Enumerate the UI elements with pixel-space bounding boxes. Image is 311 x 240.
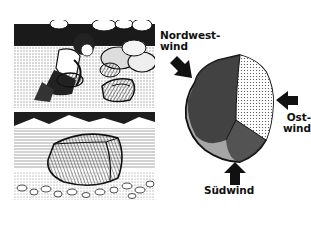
south-wind-arrow-icon	[224, 162, 246, 185]
child-stones-drawing	[14, 20, 155, 108]
east-wind-arrow-icon	[276, 91, 298, 110]
south-wind-label: Südwind	[204, 185, 254, 196]
east-wind-label: Ost- wind	[283, 112, 311, 134]
northwest-wind-label-line2: wind	[160, 41, 220, 52]
stone-on-gravel-drawing	[14, 112, 155, 200]
illustration-stone-on-gravel	[14, 112, 155, 200]
east-wind-label-line2: wind	[283, 123, 311, 134]
northwest-wind-label: Nordwest- wind	[160, 30, 220, 52]
illustration-child-with-stones	[14, 20, 155, 108]
northwest-wind-arrow-icon	[170, 56, 192, 78]
faceted-stone	[186, 55, 273, 162]
